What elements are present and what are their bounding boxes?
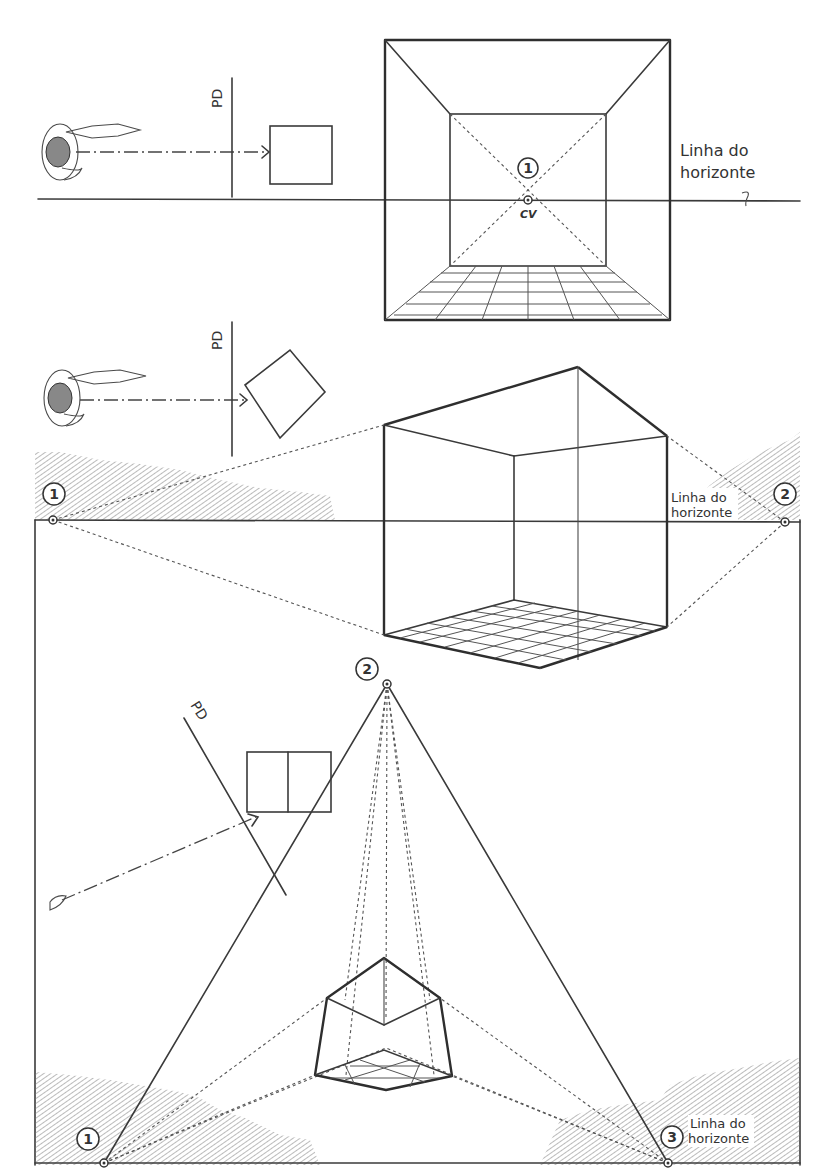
object-square — [270, 126, 332, 184]
vanishing-point-number: 1 — [523, 160, 533, 176]
horizon-label-line1: Linha do — [690, 1116, 746, 1131]
vp-left-number: 1 — [49, 486, 59, 502]
panel-two-point-perspective: PD — [35, 322, 800, 1165]
horizon-line — [38, 199, 800, 201]
vp-top-number: 2 — [362, 661, 372, 677]
panel-one-point-perspective: PD 1 CV — [38, 40, 800, 320]
picture-plane-label: PD — [209, 331, 225, 350]
horizon-label-line2: horizonte — [671, 505, 732, 520]
rotated-object-square — [245, 350, 325, 438]
eye-icon — [50, 896, 66, 910]
horizon-label-line1: Linha do — [680, 141, 748, 160]
picture-plane-label: PD — [209, 89, 225, 108]
center-of-vision-label: CV — [520, 208, 538, 221]
horizon-label-line2: horizonte — [680, 163, 755, 182]
picture-plane-line — [184, 718, 286, 895]
horizon-label-line1: Linha do — [671, 490, 727, 505]
vp-right-number: 3 — [667, 1129, 677, 1145]
picture-plane-label: PD — [187, 698, 211, 723]
horizon-pointer-icon — [742, 192, 748, 206]
horizon-line — [35, 520, 800, 522]
perspective-diagram: PD 1 CV — [0, 0, 813, 1171]
observer-top-view-icon — [44, 370, 146, 426]
three-point-cube — [315, 958, 452, 1090]
terrain-left — [35, 1072, 320, 1165]
horizon-label-line2: horizonte — [688, 1131, 749, 1146]
terrain-left — [35, 452, 335, 520]
floor-grid — [385, 266, 670, 320]
panel-three-point-perspective: PD — [35, 658, 800, 1167]
vp-left-number: 1 — [83, 1131, 93, 1147]
sight-line — [62, 817, 256, 900]
vp-right-number: 2 — [780, 486, 790, 502]
terrain-right — [540, 1058, 800, 1165]
object-rectangle — [247, 752, 331, 812]
